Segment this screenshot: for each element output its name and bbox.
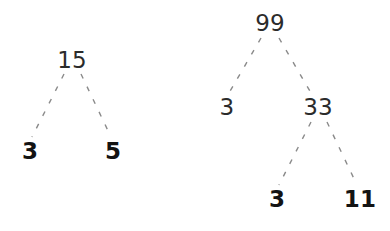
tree-node-r-right: 33 — [303, 96, 333, 119]
tree-node-r-rightright: 11 — [344, 188, 376, 211]
tree-node-r-root: 99 — [255, 12, 285, 35]
edge-99-to-33 — [279, 38, 311, 93]
tree-node-r-rightleft: 3 — [269, 188, 285, 211]
edge-15-to-3 — [32, 74, 64, 137]
tree-node-r-left: 3 — [220, 96, 235, 119]
tree-node-l-right: 5 — [105, 140, 121, 163]
edge-33-to-11 — [327, 122, 357, 185]
edge-15-to-5 — [81, 74, 111, 137]
edge-99-to-3 — [229, 38, 261, 93]
tree-node-l-left: 3 — [22, 140, 38, 163]
factor-tree-diagram: 153599333311 — [0, 0, 390, 231]
tree-node-l-root: 15 — [57, 49, 87, 72]
edge-33-to-3 — [279, 122, 311, 185]
